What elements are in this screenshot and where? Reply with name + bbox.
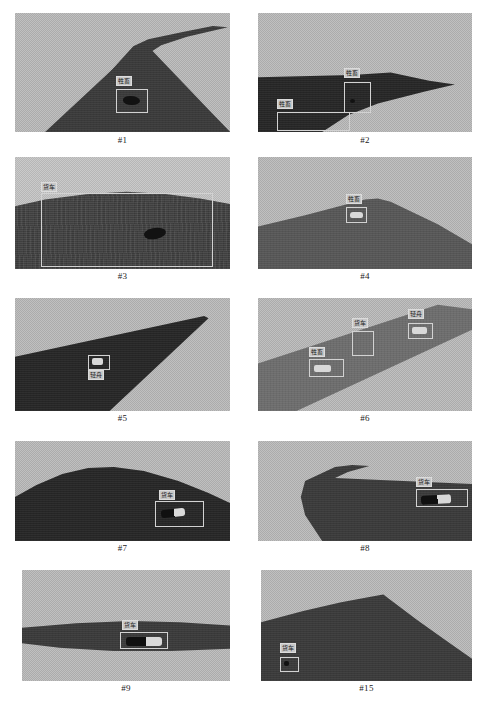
terrain-shape-main <box>15 13 230 132</box>
bounding-box[interactable] <box>309 359 343 377</box>
panel-caption: #1 <box>15 135 230 145</box>
bounding-box[interactable] <box>280 657 299 673</box>
detection-label[interactable]: 牲畜 <box>344 68 360 78</box>
detection-label[interactable]: 货车 <box>416 477 432 487</box>
bounding-box[interactable] <box>41 193 213 267</box>
detection-label[interactable]: 轻舟 <box>408 309 424 319</box>
detection-label[interactable]: 牲畜 <box>309 347 325 357</box>
bounding-box[interactable] <box>277 112 350 131</box>
bounding-box[interactable] <box>352 331 373 356</box>
panel-caption: #15 <box>261 683 472 693</box>
detection-label[interactable]: 货车 <box>352 318 368 328</box>
panel-9-image: 货车 <box>22 570 230 681</box>
detection-label[interactable]: 货车 <box>159 490 175 500</box>
panel-2[interactable]: 牲畜 牲畜 #2 <box>258 13 472 132</box>
detection-label[interactable]: 货车 <box>122 620 138 630</box>
panel-caption: #5 <box>15 413 230 423</box>
panel-6[interactable]: 轻舟 货车 牲畜 #6 <box>258 298 472 411</box>
detection-label[interactable]: 牲畜 <box>277 99 293 109</box>
panel-3-image: 货车 <box>15 157 230 269</box>
panel-9[interactable]: 货车 #9 <box>22 570 230 681</box>
panel-4[interactable]: 牲畜 #4 <box>258 157 472 269</box>
panel-1[interactable]: 牲畜 #1 <box>15 13 230 132</box>
detection-label[interactable]: 货车 <box>41 182 57 192</box>
bounding-box[interactable] <box>116 89 148 113</box>
detection-label[interactable]: 货车 <box>280 643 296 653</box>
panel-caption: #2 <box>258 135 472 145</box>
detection-label[interactable]: 轻舟 <box>88 370 104 380</box>
figure-grid: 牲畜 #1 牲畜 牲畜 #2 货车 #3 <box>0 0 487 706</box>
panel-1-image: 牲畜 <box>15 13 230 132</box>
panel-caption: #9 <box>22 683 230 693</box>
panel-caption: #8 <box>258 543 472 553</box>
panel-2-image: 牲畜 牲畜 <box>258 13 472 132</box>
panel-caption: #6 <box>258 413 472 423</box>
panel-7[interactable]: 货车 #7 <box>15 441 230 541</box>
detection-label[interactable]: 牲畜 <box>116 76 132 86</box>
bounding-box[interactable] <box>408 323 434 339</box>
bounding-box[interactable] <box>88 355 110 371</box>
panel-8[interactable]: 货车 #8 <box>258 441 472 541</box>
panel-5[interactable]: 轻舟 #5 <box>15 298 230 411</box>
panel-8-image: 货车 <box>258 441 472 541</box>
panel-caption: #7 <box>15 543 230 553</box>
bounding-box[interactable] <box>155 501 204 527</box>
terrain-shape <box>15 298 230 411</box>
panel-15-image: 货车 <box>261 570 472 681</box>
bounding-box[interactable] <box>344 82 372 113</box>
panel-6-image: 轻舟 货车 牲畜 <box>258 298 472 411</box>
panel-caption: #4 <box>258 271 472 281</box>
panel-15[interactable]: 货车 #15 <box>261 570 472 681</box>
bounding-box[interactable] <box>120 632 168 649</box>
detection-label[interactable]: 牲畜 <box>346 194 362 204</box>
panel-3[interactable]: 货车 #3 <box>15 157 230 269</box>
bounding-box[interactable] <box>416 489 467 507</box>
panel-4-image: 牲畜 <box>258 157 472 269</box>
bounding-box[interactable] <box>346 207 367 223</box>
panel-caption: #3 <box>15 271 230 281</box>
panel-7-image: 货车 <box>15 441 230 541</box>
panel-5-image: 轻舟 <box>15 298 230 411</box>
